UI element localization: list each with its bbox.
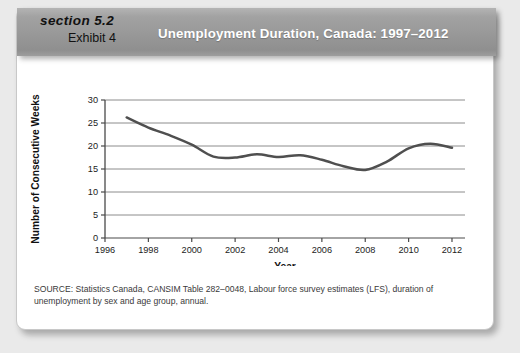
svg-text:15: 15 (88, 164, 98, 174)
svg-text:2010: 2010 (398, 245, 418, 255)
svg-text:2000: 2000 (182, 245, 202, 255)
section-label: section 5.2 (40, 13, 114, 28)
page-background: section 5.2 Exhibit 4 Unemployment Durat… (0, 0, 520, 353)
svg-text:0: 0 (93, 233, 98, 243)
svg-text:2004: 2004 (268, 245, 288, 255)
svg-text:25: 25 (88, 118, 98, 128)
source-line-2: unemployment by sex and age group, annua… (34, 295, 464, 307)
svg-text:1998: 1998 (138, 245, 158, 255)
svg-text:2002: 2002 (225, 245, 245, 255)
x-axis-ticks: 199619982000200220042006200820102012 (95, 238, 462, 255)
svg-text:10: 10 (88, 187, 98, 197)
exhibit-label: Exhibit 4 (68, 31, 116, 45)
svg-text:2006: 2006 (312, 245, 332, 255)
gridlines (105, 100, 465, 238)
y-axis-label: Number of Consecutive Weeks (30, 94, 41, 244)
svg-text:30: 30 (88, 95, 98, 105)
svg-text:2012: 2012 (442, 245, 462, 255)
svg-text:5: 5 (93, 210, 98, 220)
exhibit-header-band: section 5.2 Exhibit 4 Unemployment Durat… (17, 8, 496, 56)
source-line-1: SOURCE: Statistics Canada, CANSIM Table … (34, 283, 464, 295)
data-series-line (127, 117, 452, 170)
y-axis-ticks: 051015202530 (88, 95, 105, 243)
exhibit-title: Unemployment Duration, Canada: 1997–2012 (158, 26, 449, 41)
line-chart-svg: 051015202530 199619982000200220042006200… (17, 62, 475, 266)
svg-text:1996: 1996 (95, 245, 115, 255)
source-note: SOURCE: Statistics Canada, CANSIM Table … (34, 283, 464, 308)
svg-text:20: 20 (88, 141, 98, 151)
x-axis-label: Year (274, 261, 296, 266)
chart: 051015202530 199619982000200220042006200… (17, 62, 475, 266)
svg-text:2008: 2008 (355, 245, 375, 255)
